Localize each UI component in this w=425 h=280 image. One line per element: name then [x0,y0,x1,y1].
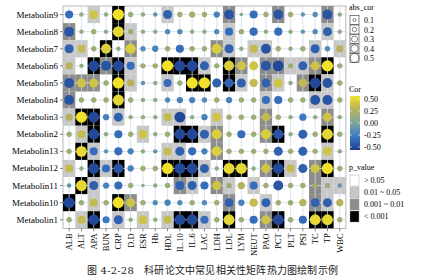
correlation-dot [274,147,283,156]
correlation-dot [300,183,305,188]
correlation-dot [212,78,221,87]
correlation-dot [66,62,73,69]
correlation-dot [153,149,157,153]
correlation-dot [250,181,258,189]
row-label: Metabolin4 [17,95,59,105]
correlation-dot [113,197,124,208]
correlation-dot [104,29,108,33]
correlation-dot [177,80,182,85]
correlation-dot [214,29,219,34]
correlation-dot [200,130,209,139]
correlation-dot [338,115,342,119]
correlation-dot [261,215,270,224]
correlation-dot [103,97,108,102]
correlation-dot [128,29,133,34]
correlation-dot [212,181,221,190]
correlation-dot [215,166,219,170]
correlation-dot [251,97,256,102]
column-label: PCT [273,232,283,248]
correlation-dot [128,97,133,102]
correlation-dot [174,214,185,225]
correlation-dot [187,129,198,140]
correlation-dot [274,28,282,36]
correlation-dot [310,78,321,89]
correlation-dot [261,61,271,71]
correlation-dot [288,217,293,222]
correlation-dot [312,29,317,34]
correlation-dot [104,149,108,153]
correlation-dot [224,10,234,20]
correlation-dot [239,47,243,51]
correlation-dot [299,199,306,206]
correlation-dot [116,47,120,51]
abs-cor-legend-title: abs_cor [349,3,374,12]
correlation-dot [188,181,197,190]
correlation-dot [238,182,245,189]
correlation-dot [128,183,133,188]
p-legend-label: > 0.05 [364,176,385,185]
correlation-dot [251,166,255,170]
correlation-dot [163,10,172,19]
correlation-dot [174,163,185,174]
correlation-dot [190,115,194,119]
column-label: LAC [199,233,209,250]
row-label: Metabolin13 [12,146,58,156]
row-label: Metabolin8 [17,27,59,37]
column-label: IL.10 [175,233,185,252]
correlation-dot [138,215,147,224]
correlation-dot [189,11,195,17]
correlation-dot [312,149,317,154]
correlation-dot [263,12,268,17]
correlation-dot [114,113,123,122]
correlation-dot [201,114,207,120]
correlation-dot [114,215,123,224]
correlation-dot [77,216,85,224]
correlation-dot [88,60,99,71]
correlation-dot [273,163,284,174]
correlation-dot [200,61,209,70]
column-label: D.D [126,233,136,247]
correlation-dot [325,183,330,188]
correlation-dot [88,112,99,123]
correlation-dot [76,112,87,123]
correlation-dot [202,200,207,205]
correlation-dot [165,97,170,102]
column-label: BUN [101,233,111,251]
correlation-dot [300,97,305,102]
correlation-dot [177,97,183,103]
p-legend-label: < 0.001 [364,212,389,221]
correlation-dot [64,27,74,37]
p-legend-label: 0.01 ~ 0.05 [364,188,400,197]
correlation-dot [299,216,307,224]
column-label: WBC [335,233,345,253]
colorbar-tick-label: 0.00 [364,119,378,128]
correlation-dot [102,164,110,172]
correlation-dot [202,97,207,102]
colorbar-tick-label: -0.50 [364,143,381,152]
correlation-dot [224,163,235,174]
correlation-dot [323,27,332,36]
correlation-dot [225,198,234,207]
correlation-dot [250,10,258,18]
column-label: ALB [64,233,74,250]
correlation-dot [103,80,108,85]
column-label: PSI [298,233,308,245]
correlation-dot [91,97,96,102]
correlation-dot [141,81,145,85]
correlation-dot [90,199,98,207]
correlation-dot [261,44,271,54]
correlation-dot [141,115,145,119]
correlation-dot [153,218,157,222]
correlation-dot [337,166,342,171]
correlation-dot [79,200,84,205]
column-label: ALT [76,232,86,249]
correlation-dot [239,29,244,34]
correlation-dot [128,148,134,154]
correlation-dot [164,200,170,206]
cor-colorbar-legend: Cor 0.500.250.00-0.25-0.50 [349,85,381,152]
correlation-dot [104,12,108,16]
size-legend-label: 0.3 [364,35,374,44]
correlation-dot [298,130,307,139]
correlation-dot [261,164,270,173]
correlation-dot [337,97,342,102]
